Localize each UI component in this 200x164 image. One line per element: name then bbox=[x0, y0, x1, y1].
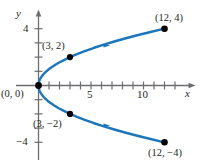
y-axis-label: y bbox=[16, 8, 21, 19]
parabola-figure: y x 4 −4 5 10 (0, 0) (3, 2) (12, 4) (3, … bbox=[0, 0, 200, 164]
x-axis-label: x bbox=[185, 88, 190, 99]
y-tick-label-neg4: −4 bbox=[16, 136, 28, 147]
point-3-neg2 bbox=[67, 111, 73, 117]
point-label-12-4: (12, 4) bbox=[155, 13, 183, 24]
point-12-4 bbox=[161, 25, 168, 32]
point-label-origin: (0, 0) bbox=[1, 89, 24, 100]
axes-group bbox=[16, 10, 196, 161]
point-label-3-neg2: (3, −2) bbox=[33, 119, 62, 130]
direction-arrow-upper bbox=[103, 44, 111, 47]
y-axis-arrowhead bbox=[36, 10, 42, 17]
point-origin bbox=[35, 82, 42, 89]
direction-arrow-lower bbox=[103, 123, 111, 126]
parabola-plot-svg bbox=[0, 0, 200, 164]
y-tick-label-4: 4 bbox=[23, 23, 29, 34]
point-label-3-2: (3, 2) bbox=[42, 41, 65, 52]
point-12-neg4 bbox=[161, 139, 168, 146]
point-3-2 bbox=[67, 54, 73, 60]
x-tick-label-10: 10 bbox=[137, 89, 148, 100]
point-label-12-neg4: (12, −4) bbox=[148, 148, 182, 159]
x-tick-label-5: 5 bbox=[87, 89, 93, 100]
